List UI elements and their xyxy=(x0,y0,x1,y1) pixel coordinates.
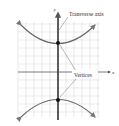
vertices-leader-upper xyxy=(60,45,76,71)
hyperbola-diagram: x y Transverse axis Vertices xyxy=(0,0,119,126)
vertices-label: Vertices xyxy=(74,72,92,78)
transverse-axis-leader xyxy=(59,17,68,30)
x-axis-label: x xyxy=(111,70,115,75)
diagram-canvas: x y Transverse axis Vertices xyxy=(0,0,119,126)
vertex-lower xyxy=(56,98,60,102)
vertex-upper xyxy=(56,41,60,45)
transverse-axis-label: Transverse axis xyxy=(69,11,104,17)
y-axis-label: y xyxy=(53,7,57,12)
